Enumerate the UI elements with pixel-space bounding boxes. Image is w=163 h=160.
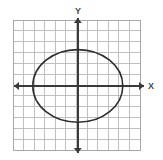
x-axis-label: X: [148, 81, 154, 91]
y-axis-label: Y: [75, 6, 81, 16]
coordinate-plane-figure: X Y: [0, 0, 163, 160]
figure-background: [0, 0, 163, 160]
figure-container: X Y: [0, 0, 163, 160]
